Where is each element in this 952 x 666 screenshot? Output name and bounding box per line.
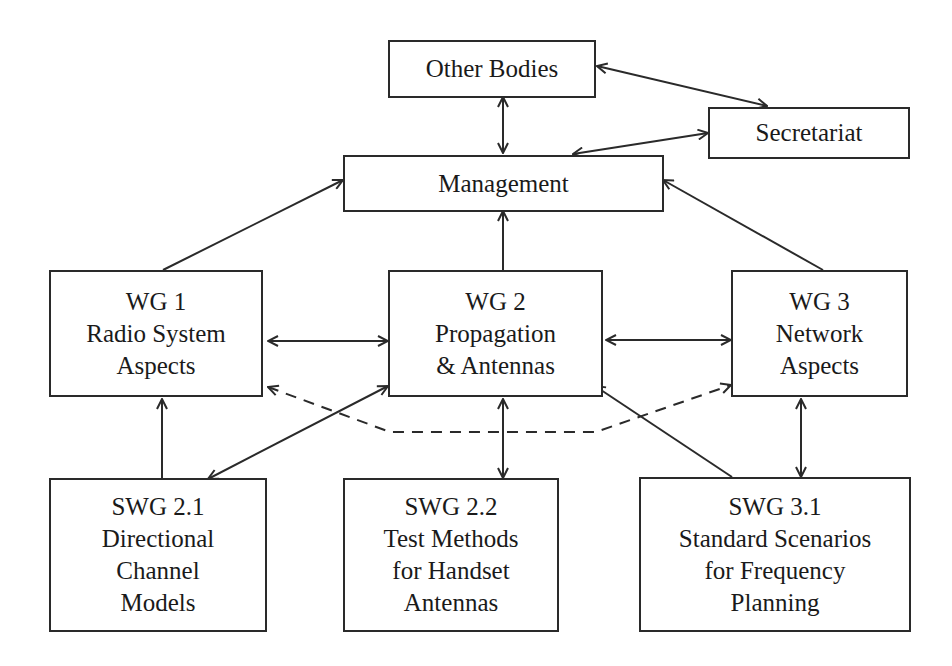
node-title: WG 2 — [465, 286, 525, 318]
edge-wg1-management — [163, 180, 343, 270]
node-wg1: WG 1 Radio System Aspects — [49, 270, 263, 397]
node-label: Radio System — [86, 318, 226, 350]
node-swg31: SWG 3.1 Standard Scenarios for Frequency… — [639, 477, 911, 632]
node-label: Standard Scenarios — [679, 523, 871, 555]
node-label: for Handset — [392, 555, 509, 587]
node-wg2: WG 2 Propagation & Antennas — [388, 270, 603, 397]
edge-swg31-wg2 — [595, 386, 732, 477]
node-label: Other Bodies — [426, 53, 559, 85]
node-title: SWG 3.1 — [728, 491, 821, 523]
node-title: WG 3 — [789, 286, 849, 318]
node-label: Propagation — [435, 318, 556, 350]
node-title: WG 1 — [126, 286, 186, 318]
node-label: Antennas — [404, 587, 498, 619]
edge-swg21-wg2 — [208, 386, 388, 479]
node-label: Test Methods — [383, 523, 518, 555]
node-label: Network — [776, 318, 863, 350]
edge-otherbodies-secretariat — [597, 66, 767, 106]
node-title: SWG 2.1 — [111, 491, 204, 523]
node-label: Aspects — [116, 350, 195, 382]
node-label: Management — [438, 168, 569, 200]
node-label: for Frequency — [705, 555, 846, 587]
node-wg3: WG 3 Network Aspects — [731, 270, 908, 397]
node-secretariat: Secretariat — [708, 107, 910, 159]
edge-secretariat-management — [573, 133, 708, 154]
node-label: Channel — [116, 555, 199, 587]
node-title: SWG 2.2 — [404, 491, 497, 523]
node-swg22: SWG 2.2 Test Methods for Handset Antenna… — [343, 478, 559, 632]
edge-wg3-management — [663, 180, 823, 270]
node-management: Management — [343, 155, 664, 212]
node-other-bodies: Other Bodies — [388, 40, 596, 98]
node-label: Secretariat — [756, 117, 863, 149]
node-label: & Antennas — [436, 350, 555, 382]
node-swg21: SWG 2.1 Directional Channel Models — [49, 478, 267, 632]
node-label: Aspects — [780, 350, 859, 382]
node-label: Directional — [102, 523, 214, 555]
node-label: Models — [121, 587, 196, 619]
node-label: Planning — [731, 587, 820, 619]
